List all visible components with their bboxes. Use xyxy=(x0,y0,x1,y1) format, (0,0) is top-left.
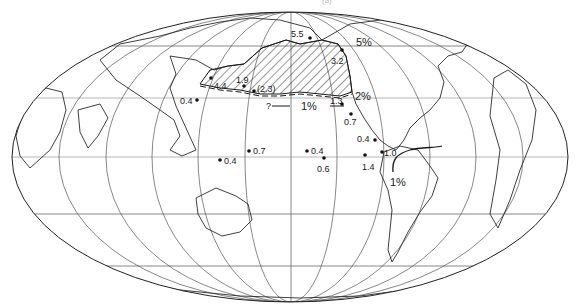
station-value: 0.7 xyxy=(344,117,357,127)
station-value: 0.4 xyxy=(180,96,193,106)
station-value: 1.9 xyxy=(236,75,249,85)
station-value: 0.4 xyxy=(224,156,237,166)
station-value: 1.3 xyxy=(330,96,343,106)
world-map: 5% 2% 1% ? 1% 5.5 3.2 4.4 1.9 (2.3) 0.4 … xyxy=(0,0,575,306)
station-value: 0.7 xyxy=(253,146,266,156)
station-value: 4.4 xyxy=(214,81,227,91)
station-value: 1.0 xyxy=(384,148,397,158)
station-value: 5.5 xyxy=(291,29,304,39)
contour-label: 1% xyxy=(390,176,406,188)
contour-label: ? xyxy=(266,101,271,111)
station-value: 3.2 xyxy=(331,56,344,66)
station-value: 0.4 xyxy=(357,134,370,144)
contour-label: 5% xyxy=(356,36,372,48)
station-value: 0.6 xyxy=(317,164,330,174)
contour-label: 1% xyxy=(301,100,317,112)
station-value: 0.4 xyxy=(311,146,324,156)
station-value: 1.4 xyxy=(362,162,375,172)
contour-label: 2% xyxy=(355,90,371,102)
station-value: (2.3) xyxy=(257,84,276,94)
